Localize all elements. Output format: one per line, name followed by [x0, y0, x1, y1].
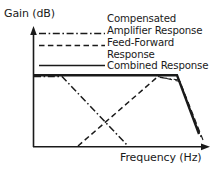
- y-axis-label: Gain (dB): [4, 8, 55, 19]
- legend-label-compensated-amplifier-response-line1: Compensated: [107, 14, 176, 24]
- x-axis-label: Frequency (Hz): [120, 152, 202, 163]
- series-feed-forward-response: [78, 77, 203, 147]
- legend-label-feed-forward-response-line1: Feed-Forward: [107, 38, 174, 48]
- legend-label-combined-response: Combined Response: [107, 61, 208, 71]
- feed-forward-response-curve: [78, 77, 158, 147]
- x-axis-arrowhead: [201, 143, 210, 150]
- series-combined-response: [34, 75, 199, 134]
- legend-label-feed-forward-response-line2: Response: [107, 50, 155, 60]
- gain-frequency-chart-figure: Gain (dB) Frequency (Hz) Compensated Amp…: [0, 0, 215, 172]
- legend-sample-lines: [39, 34, 105, 66]
- legend-label-compensated-amplifier-response-line2: Amplifier Response: [107, 26, 202, 36]
- y-axis-arrowhead: [30, 26, 37, 35]
- amplifier-response-curve: [34, 77, 128, 147]
- series-compensated-amplifier-response: [34, 77, 201, 147]
- combined-response-curve: [34, 75, 199, 134]
